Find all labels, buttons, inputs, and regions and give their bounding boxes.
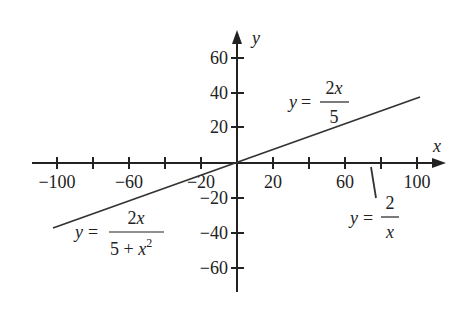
y-tick-label: 40 [210,83,228,103]
y-tick-label: −60 [200,258,228,278]
x-axis-label: x [432,136,441,156]
reciprocal-leader-line [371,167,376,198]
denominator: 5 + x2 [110,236,152,259]
y-tick-label: −40 [200,223,228,243]
denominator: 5 [330,107,339,127]
numerator: 2x [128,208,145,228]
x-tick-label: −100 [38,172,75,192]
denominator: x [385,222,394,242]
label-linear: y = 2x 5 [287,78,349,127]
x-tick-label: −60 [115,172,143,192]
svg-text:=: = [88,222,98,242]
function-graph: x y −100 −60 −20 20 60 100 60 40 20 −20 … [0,0,469,311]
svg-text:y: y [348,208,358,228]
y-axis-label: y [250,28,260,48]
svg-text:=: = [363,208,373,228]
svg-text:=: = [301,92,311,112]
y-tick-label: −20 [200,188,228,208]
y-tick-label: 60 [210,48,228,68]
label-reciprocal: y = 2 x [348,193,399,242]
x-tick-label: 20 [264,172,282,192]
numerator: 2 [386,193,395,213]
svg-text:y: y [287,92,297,112]
svg-text:y: y [73,222,83,242]
x-tick-label: 100 [404,172,431,192]
x-axis-arrow-icon [432,158,446,168]
x-tick-label: 60 [336,172,354,192]
y-axis-arrow-icon [232,30,242,44]
numerator: 2x [326,78,343,98]
y-tick-label: 20 [210,117,228,137]
